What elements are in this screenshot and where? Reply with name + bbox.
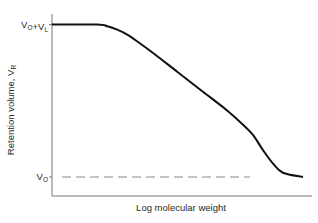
series-retention-curve [52, 24, 303, 177]
y-tick-label: VO+VL [21, 19, 48, 33]
x-axis-label: Log molecular weight [136, 202, 226, 213]
y-axis-label: Retention volume, VR [5, 65, 17, 156]
y-tick-label: VO [37, 171, 48, 183]
chart: VO+VLVO Log molecular weight Retention v… [0, 0, 318, 223]
